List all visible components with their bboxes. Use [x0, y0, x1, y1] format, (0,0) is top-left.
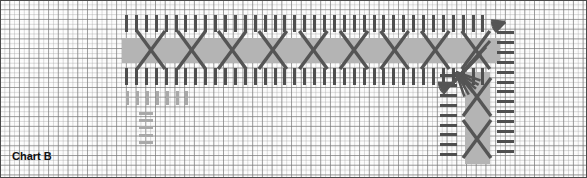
- chart-title: Chart B: [12, 150, 52, 162]
- gathered-decrease-ray: [491, 21, 505, 22]
- knitting-chart-b: Chart B: [0, 0, 587, 178]
- cable-symbols-layer: [0, 0, 587, 178]
